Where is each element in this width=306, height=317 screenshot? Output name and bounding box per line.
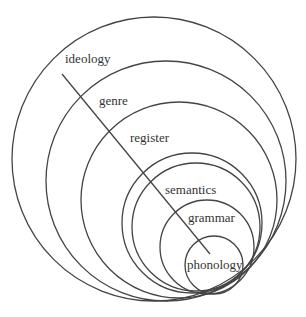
label-genre: genre [99, 94, 128, 107]
circle-ideology [12, 17, 296, 301]
strata-diagram [0, 0, 306, 317]
label-semantics: semantics [165, 183, 216, 196]
label-ideology: ideology [65, 52, 111, 65]
label-phonology: phonology [187, 258, 243, 271]
label-grammar: grammar [188, 211, 235, 224]
label-register: register [130, 131, 169, 144]
